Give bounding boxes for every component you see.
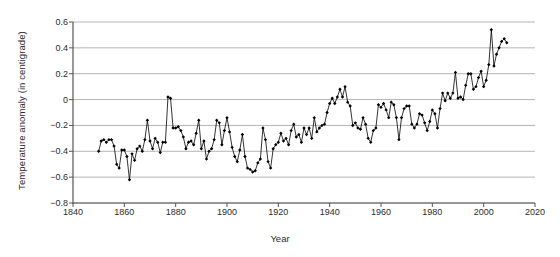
data-point xyxy=(128,178,131,181)
data-point xyxy=(387,116,390,119)
data-point xyxy=(487,63,490,66)
data-point xyxy=(497,46,500,49)
data-point xyxy=(423,121,426,124)
data-point xyxy=(112,144,115,147)
data-point xyxy=(446,91,449,94)
data-point xyxy=(236,160,239,163)
data-point xyxy=(184,147,187,150)
data-point xyxy=(384,108,387,111)
data-point xyxy=(195,131,198,134)
data-point xyxy=(313,116,316,119)
temperature-anomaly-chart: Temperature anomaly (in centigrade) Year… xyxy=(0,0,560,257)
data-point xyxy=(266,160,269,163)
data-point xyxy=(197,119,200,122)
data-point xyxy=(485,78,488,81)
data-point xyxy=(182,135,185,138)
data-point xyxy=(338,88,341,91)
data-point xyxy=(428,120,431,123)
data-point xyxy=(230,146,233,149)
data-point xyxy=(223,129,226,132)
data-point xyxy=(310,137,313,140)
data-point xyxy=(133,159,136,162)
data-series-line xyxy=(99,30,507,180)
data-point xyxy=(436,126,439,129)
data-point xyxy=(438,107,441,110)
data-point xyxy=(300,141,303,144)
data-point xyxy=(341,95,344,98)
data-point xyxy=(205,157,208,160)
data-point xyxy=(490,28,493,31)
data-point xyxy=(397,138,400,141)
data-point xyxy=(110,138,113,141)
data-point xyxy=(228,130,231,133)
data-point xyxy=(289,129,292,132)
data-point xyxy=(343,85,346,88)
data-point xyxy=(125,155,128,158)
data-point xyxy=(477,76,480,79)
data-point xyxy=(333,102,336,105)
data-point xyxy=(361,116,364,119)
data-point xyxy=(141,150,144,153)
data-point xyxy=(395,116,398,119)
data-point xyxy=(464,84,467,87)
data-point xyxy=(143,138,146,141)
data-point xyxy=(336,95,339,98)
data-point xyxy=(202,139,205,142)
data-point xyxy=(479,69,482,72)
data-point xyxy=(482,85,485,88)
data-point xyxy=(269,166,272,169)
data-point xyxy=(328,102,331,105)
data-point xyxy=(97,150,100,153)
data-point xyxy=(146,119,149,122)
data-point xyxy=(233,155,236,158)
data-point xyxy=(279,131,282,134)
data-point xyxy=(164,141,167,144)
data-point xyxy=(148,139,151,142)
data-point xyxy=(287,143,290,146)
data-point xyxy=(243,155,246,158)
data-point xyxy=(451,91,454,94)
data-point xyxy=(408,104,411,107)
data-series-markers xyxy=(97,28,509,181)
data-point xyxy=(307,126,310,129)
data-point xyxy=(492,64,495,67)
data-point xyxy=(426,129,429,132)
data-point xyxy=(130,152,133,155)
data-point xyxy=(325,111,328,114)
data-point xyxy=(400,116,403,119)
data-point xyxy=(225,116,228,119)
data-point xyxy=(220,143,223,146)
data-point xyxy=(212,138,215,141)
data-point xyxy=(469,72,472,75)
data-point xyxy=(264,138,267,141)
data-point xyxy=(241,133,244,136)
data-point xyxy=(261,126,264,129)
data-point xyxy=(151,147,154,150)
data-point xyxy=(441,91,444,94)
data-point xyxy=(200,147,203,150)
data-point xyxy=(495,53,498,56)
data-point xyxy=(305,133,308,136)
plot-area xyxy=(0,0,560,257)
data-point xyxy=(302,126,305,129)
